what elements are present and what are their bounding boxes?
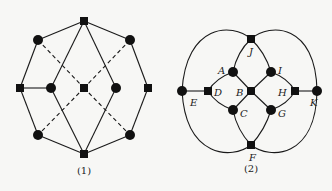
node-label: D	[213, 87, 222, 98]
square-node	[80, 150, 88, 158]
square-node	[144, 84, 152, 92]
edge	[38, 135, 84, 154]
square-node	[247, 87, 255, 95]
graph-figures: (1)JAIEDBHKCGF(2)	[0, 0, 332, 191]
square-node	[80, 17, 88, 25]
edge	[130, 88, 148, 135]
node-label: C	[240, 108, 248, 119]
circle-node	[266, 67, 276, 77]
circle-node	[228, 105, 238, 115]
square-node	[247, 141, 255, 149]
square-node	[16, 84, 24, 92]
edge	[130, 40, 148, 88]
figure-caption: (2)	[244, 163, 258, 174]
node-label: H	[277, 87, 287, 98]
diagram-canvas: (1)JAIEDBHKCGF(2)	[0, 0, 332, 191]
square-node	[80, 84, 88, 92]
circle-node	[46, 83, 56, 93]
dashed-edge	[84, 40, 130, 88]
edge	[20, 40, 38, 88]
node-label: I	[277, 65, 283, 76]
circle-node	[125, 35, 135, 45]
edge	[84, 21, 130, 40]
circle-node	[312, 86, 322, 96]
node-label: A	[217, 65, 225, 76]
dashed-edge	[84, 88, 130, 135]
circle-node	[111, 83, 121, 93]
edge	[38, 21, 84, 40]
node-label: G	[278, 108, 286, 119]
curved-edge	[251, 39, 271, 72]
square-node	[291, 87, 299, 95]
circle-node	[33, 130, 43, 140]
circle-node	[266, 105, 276, 115]
circle-node	[177, 86, 187, 96]
figure-2: JAIEDBHKCGF(2)	[177, 30, 322, 174]
figure-caption: (1)	[77, 165, 91, 176]
figure-1: (1)	[16, 17, 152, 176]
circle-node	[228, 67, 238, 77]
node-label: F	[248, 152, 257, 163]
node-label: J	[247, 46, 254, 57]
node-label: B	[235, 87, 243, 98]
square-node	[204, 87, 212, 95]
node-label: E	[189, 97, 198, 108]
dashed-edge	[38, 88, 84, 135]
curved-edge	[251, 110, 271, 145]
node-label: K	[309, 97, 318, 108]
square-node	[247, 35, 255, 43]
edge	[84, 88, 116, 154]
edge	[84, 21, 116, 88]
edge	[51, 88, 84, 154]
edge	[51, 21, 84, 88]
circle-node	[33, 35, 43, 45]
edge	[20, 88, 38, 135]
dashed-edge	[38, 40, 84, 88]
edge	[84, 135, 130, 154]
circle-node	[125, 130, 135, 140]
